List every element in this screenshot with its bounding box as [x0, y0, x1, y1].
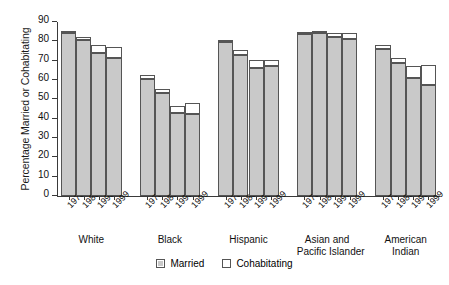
bar-segment-married [170, 113, 185, 196]
y-axis-tick: 50 [52, 98, 57, 99]
bar-segment-cohabitating [312, 31, 327, 33]
bar-segment-cohabitating [342, 33, 357, 40]
bar-segment-cohabitating [421, 65, 436, 85]
group-label-american-indian: AmericanIndian [375, 234, 436, 258]
y-axis-tick: 60 [52, 79, 57, 80]
y-axis-tick-label: 60 [38, 72, 49, 83]
bar-segment-married [140, 79, 155, 196]
bar-segment-cohabitating [106, 47, 121, 58]
bar-white-1970 [61, 31, 76, 196]
bar-hispanic-1970 [218, 41, 233, 196]
legend-item-married[interactable]: Married [156, 258, 204, 269]
bar-american-indian-1990 [406, 66, 421, 197]
bar-black-1999 [185, 103, 200, 196]
bar-asian-and-pacific-islander-1990 [327, 33, 342, 196]
bar-segment-married [406, 78, 421, 196]
bar-segment-married [249, 68, 264, 196]
y-axis-tick-label: 20 [38, 149, 49, 160]
legend-item-cohabitating[interactable]: Cohabitating [222, 258, 292, 269]
y-axis-tick-label: 40 [38, 111, 49, 122]
bar-segment-cohabitating [140, 75, 155, 79]
bar-segment-married [312, 33, 327, 196]
group-label-black: Black [140, 234, 201, 246]
bar-segment-married [264, 66, 279, 196]
bar-black-1980 [155, 89, 170, 196]
bar-segment-married [106, 58, 121, 196]
bar-segment-cohabitating [155, 89, 170, 93]
y-axis-tick: 90 [52, 21, 57, 22]
y-axis-tick: 10 [52, 176, 57, 177]
bar-asian-and-pacific-islander-1980 [312, 32, 327, 196]
bar-segment-cohabitating [375, 45, 390, 49]
bar-segment-married [185, 114, 200, 196]
y-axis-tick: 30 [52, 137, 57, 138]
legend-swatch-icon [222, 259, 231, 268]
group-label-asian-and-pacific-islander: Asian andPacific Islander [297, 234, 358, 258]
bar-segment-married [61, 33, 76, 196]
bar-american-indian-1999 [421, 65, 436, 196]
bar-american-indian-1970 [375, 45, 390, 196]
bar-segment-married [421, 85, 436, 196]
y-axis-tick: 70 [52, 60, 57, 61]
bar-segment-cohabitating [61, 31, 76, 33]
bar-asian-and-pacific-islander-1970 [297, 32, 312, 196]
bar-segment-cohabitating [406, 66, 421, 79]
y-axis-tick-label: 80 [38, 33, 49, 44]
bar-segment-cohabitating [327, 33, 342, 38]
y-axis-tick-label: 90 [38, 14, 49, 25]
bar-segment-married [391, 63, 406, 196]
bar-segment-cohabitating [264, 60, 279, 67]
bar-segment-married [218, 42, 233, 196]
bar-american-indian-1980 [391, 58, 406, 196]
y-axis-tick: 80 [52, 40, 57, 41]
group-label-white: White [61, 234, 122, 246]
chart-legend: MarriedCohabitating [0, 258, 449, 269]
group-label-hispanic: Hispanic [218, 234, 279, 246]
bar-segment-married [375, 49, 390, 196]
bar-hispanic-1999 [264, 60, 279, 196]
bar-segment-cohabitating [218, 40, 233, 42]
bar-segment-cohabitating [391, 58, 406, 63]
y-axis-tick: 0 [52, 195, 57, 196]
bar-segment-cohabitating [233, 50, 248, 55]
bar-hispanic-1980 [233, 50, 248, 196]
bar-segment-married [297, 34, 312, 196]
bar-segment-cohabitating [249, 60, 264, 69]
legend-swatch-icon [156, 259, 165, 268]
bar-segment-married [233, 55, 248, 196]
bar-segment-married [76, 40, 91, 196]
bar-segment-cohabitating [185, 103, 200, 114]
y-axis-tick: 20 [52, 156, 57, 157]
bar-asian-and-pacific-islander-1999 [342, 33, 357, 196]
y-axis-tick-label: 0 [43, 188, 49, 199]
y-axis-title: Percentage Married or Cohabitating [19, 14, 31, 204]
bar-segment-cohabitating [170, 106, 185, 113]
legend-label: Cohabitating [236, 258, 292, 269]
bar-segment-married [91, 53, 106, 196]
legend-label: Married [170, 258, 204, 269]
bar-segment-married [327, 37, 342, 196]
bar-white-1990 [91, 45, 106, 196]
bar-segment-married [342, 39, 357, 196]
y-axis-line [57, 22, 58, 196]
plot-area: 0102030405060708090197019801990199919701… [57, 22, 440, 196]
y-axis-tick-label: 50 [38, 91, 49, 102]
y-axis-tick: 40 [52, 118, 57, 119]
bar-black-1990 [170, 106, 185, 196]
y-axis-tick-label: 30 [38, 130, 49, 141]
bar-segment-married [155, 93, 170, 196]
bar-segment-cohabitating [297, 32, 312, 34]
bar-black-1970 [140, 75, 155, 196]
bar-white-1999 [106, 47, 121, 196]
bar-segment-cohabitating [91, 45, 106, 53]
bar-segment-cohabitating [76, 37, 91, 41]
y-axis-tick-label: 70 [38, 53, 49, 64]
bar-white-1980 [76, 37, 91, 197]
chart-container: Percentage Married or Cohabitating 01020… [0, 0, 449, 285]
bar-hispanic-1990 [249, 60, 264, 196]
y-axis-tick-label: 10 [38, 169, 49, 180]
